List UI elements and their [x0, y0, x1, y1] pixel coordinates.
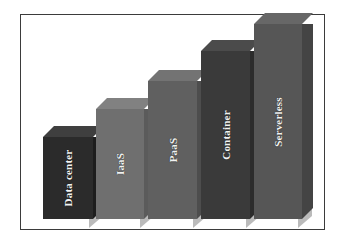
bar-front-face	[43, 137, 93, 219]
bar-top-face	[43, 126, 104, 137]
bar-top-face	[201, 40, 261, 51]
bar-front-face	[201, 51, 250, 219]
bar-front-face	[96, 109, 144, 219]
bar-iaas[interactable]: IaaS	[96, 109, 144, 219]
chart-frame: Data centerIaaSPaaSContainerServerless	[20, 14, 325, 230]
bar-data-center[interactable]: Data center	[43, 137, 93, 219]
bar-top-face	[148, 70, 208, 81]
bar-serverless[interactable]: Serverless	[254, 24, 302, 219]
bar-container[interactable]: Container	[201, 51, 250, 219]
bar-paas[interactable]: PaaS	[148, 81, 197, 219]
bar-top-face	[96, 98, 155, 109]
bar-side-face	[302, 24, 313, 219]
bar-front-face	[148, 81, 197, 219]
plot-area: Data centerIaaSPaaSContainerServerless	[21, 15, 324, 229]
bar-top-face	[254, 13, 313, 24]
bar-front-face	[254, 24, 302, 219]
figure-root: Data centerIaaSPaaSContainerServerless	[0, 0, 343, 245]
